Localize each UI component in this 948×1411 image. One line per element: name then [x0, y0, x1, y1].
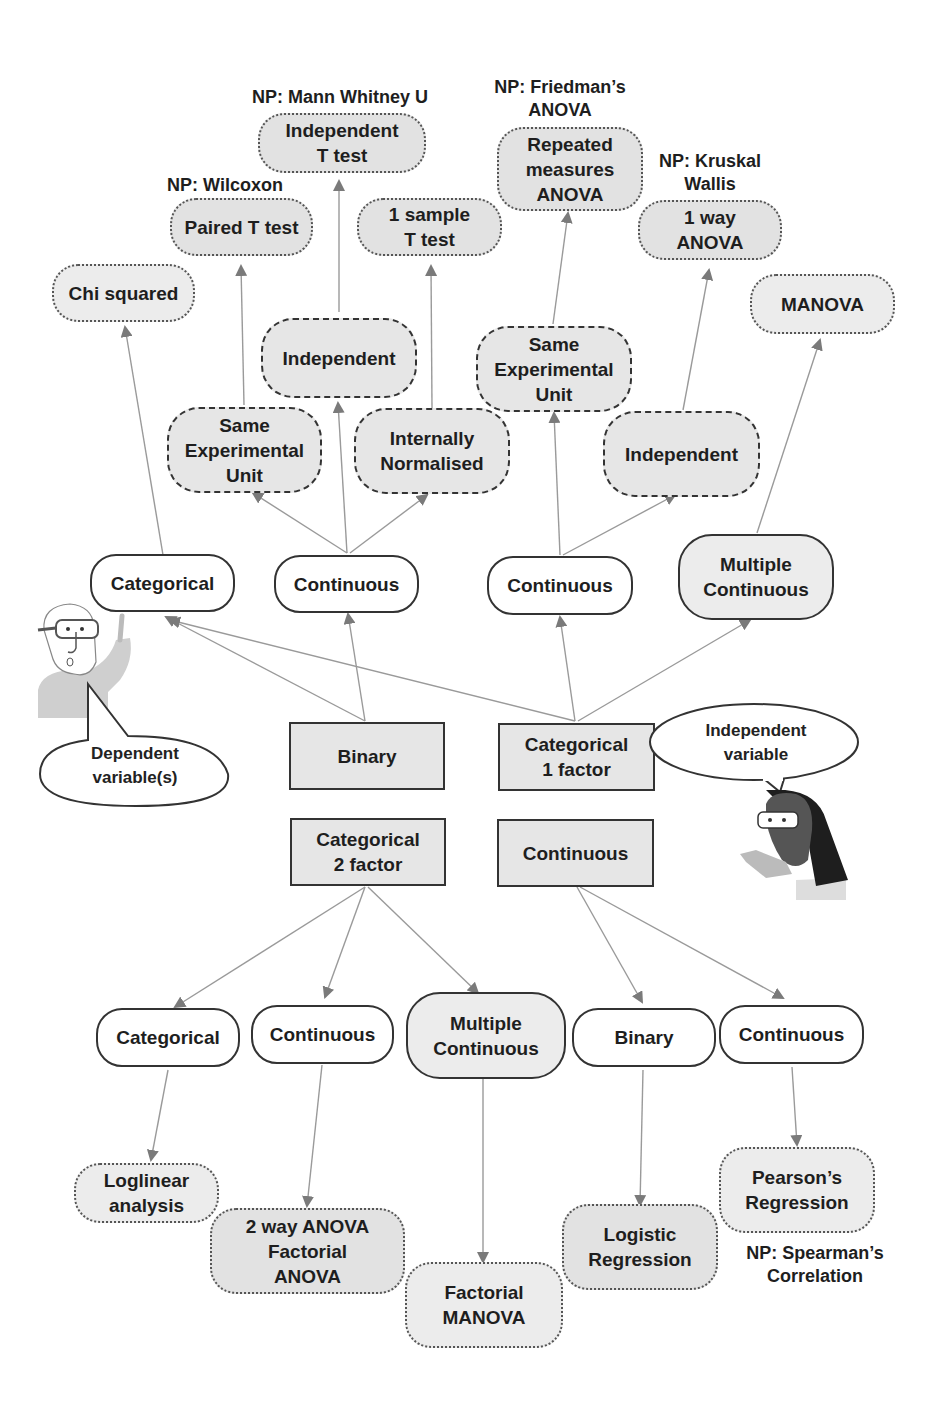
dv-continuous-bottom-1[interactable]: Continuous — [251, 1005, 394, 1064]
np-label-wilcoxon: NP: Wilcoxon — [150, 174, 300, 197]
dv-binary-bottom[interactable]: Binary — [572, 1008, 716, 1067]
dv-continuous-bottom-2[interactable]: Continuous — [719, 1005, 864, 1064]
np-label-mann-whitney: NP: Mann Whitney U — [230, 86, 450, 109]
test-one-way-anova[interactable]: 1 way ANOVA — [638, 200, 782, 260]
test-independent-t-test[interactable]: Independent T test — [258, 113, 426, 173]
condition-internally-normalised[interactable]: Internally Normalised — [354, 408, 510, 494]
condition-independent-1[interactable]: Independent — [261, 318, 417, 398]
test-paired-t-test[interactable]: Paired T test — [170, 198, 313, 256]
student-illustration-right-icon — [736, 790, 866, 900]
test-manova[interactable]: MANOVA — [750, 274, 895, 334]
dependent-variable-label: Dependent variable(s) — [40, 738, 230, 794]
test-pearsons-regression[interactable]: Pearson’s Regression — [719, 1147, 875, 1233]
test-logistic-regression[interactable]: Logistic Regression — [562, 1204, 718, 1290]
iv-categorical-2-factor[interactable]: Categorical 2 factor — [290, 818, 446, 886]
iv-continuous[interactable]: Continuous — [497, 819, 654, 887]
dv-continuous-top-1[interactable]: Continuous — [274, 555, 419, 613]
dv-continuous-top-2[interactable]: Continuous — [487, 556, 633, 615]
np-label-spearman: NP: Spearman’s Correlation — [725, 1242, 905, 1288]
iv-binary[interactable]: Binary — [289, 722, 445, 790]
test-repeated-measures-anova[interactable]: Repeated measures ANOVA — [497, 127, 643, 211]
np-label-kruskal-wallis: NP: Kruskal Wallis — [630, 150, 790, 196]
test-loglinear-analysis[interactable]: Loglinear analysis — [74, 1163, 219, 1223]
iv-categorical-1-factor[interactable]: Categorical 1 factor — [498, 723, 655, 791]
test-factorial-manova[interactable]: Factorial MANOVA — [405, 1262, 563, 1348]
condition-same-experimental-unit-1[interactable]: Same Experimental Unit — [167, 407, 322, 493]
dv-multiple-continuous-top[interactable]: Multiple Continuous — [678, 534, 834, 620]
dv-categorical-bottom[interactable]: Categorical — [96, 1008, 240, 1067]
condition-independent-2[interactable]: Independent — [603, 411, 760, 497]
test-chi-squared[interactable]: Chi squared — [52, 264, 195, 322]
test-one-sample-t-test[interactable]: 1 sample T test — [357, 198, 502, 256]
independent-variable-label: Independent variable — [656, 718, 856, 768]
dv-multiple-continuous-bottom[interactable]: Multiple Continuous — [406, 992, 566, 1079]
np-label-friedman: NP: Friedman’s ANOVA — [470, 76, 650, 122]
condition-same-experimental-unit-2[interactable]: Same Experimental Unit — [476, 326, 632, 412]
test-two-way-anova[interactable]: 2 way ANOVA Factorial ANOVA — [210, 1208, 405, 1294]
